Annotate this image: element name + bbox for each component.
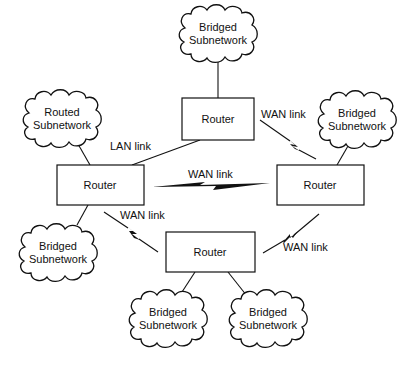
lan-link-label: LAN link [110,140,151,152]
router-top-label: Router [201,113,234,125]
cloud-bottom-left-bridged-subnetwork[interactable]: Bridged Subnetwork [129,290,207,348]
svg-text:Subnetwork: Subnetwork [239,319,298,331]
router-left-label: Router [83,179,116,191]
wan-link-bottom-right-label: WAN link [283,241,328,253]
cloud-right-bridged-subnetwork[interactable]: Bridged Subnetwork [318,91,396,149]
cloud-top-bridged-subnetwork[interactable]: Bridged Subnetwork [179,5,257,63]
wan-link-top-right-label: WAN link [261,108,306,120]
svg-text:Subnetwork: Subnetwork [33,119,92,131]
router-bottom-label: Router [193,246,226,258]
wan-link-left-right [152,182,270,190]
router-right[interactable]: Router [277,165,364,205]
svg-text:Subnetwork: Subnetwork [29,253,88,265]
svg-text:Bridged: Bridged [39,240,77,252]
connector-left-bottom-cloud [77,205,88,225]
connector-routed-cloud [78,144,90,165]
cloud-routed-subnetwork[interactable]: Routed Subnetwork [23,90,101,148]
connector-bottom-right-cloud [228,272,247,296]
router-left[interactable]: Router [57,165,144,205]
router-top[interactable]: Router [182,98,254,140]
cloud-left-bottom-bridged-subnetwork[interactable]: Bridged Subnetwork [19,224,97,282]
wan-link-top-right [260,120,316,159]
connector-bottom-left-cloud [182,272,195,292]
connector-right-cloud [337,146,348,165]
svg-text:Subnetwork: Subnetwork [189,34,248,46]
svg-text:Bridged: Bridged [199,21,237,33]
svg-text:Subnetwork: Subnetwork [139,319,198,331]
svg-text:Bridged: Bridged [338,107,376,119]
svg-text:Bridged: Bridged [149,306,187,318]
router-right-label: Router [303,179,336,191]
network-diagram: Router Router Router Router Bridged Subn… [0,0,406,371]
svg-text:Bridged: Bridged [249,306,287,318]
wan-link-left-right-label: WAN link [188,168,233,180]
svg-text:Subnetwork: Subnetwork [328,120,387,132]
router-bottom[interactable]: Router [166,232,255,272]
cloud-bottom-right-bridged-subnetwork[interactable]: Bridged Subnetwork [229,290,307,348]
wan-link-left-bottom-label: WAN link [120,209,165,221]
svg-text:Routed: Routed [44,106,79,118]
